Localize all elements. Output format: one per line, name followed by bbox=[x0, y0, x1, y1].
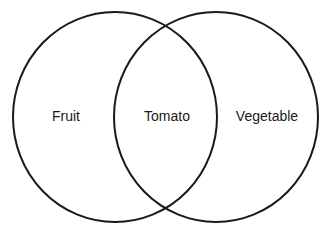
vegetable-label: Vegetable bbox=[236, 108, 298, 124]
fruit-label: Fruit bbox=[52, 108, 80, 124]
venn-diagram: Fruit Tomato Vegetable bbox=[0, 0, 328, 237]
tomato-intersection-label: Tomato bbox=[144, 108, 190, 124]
